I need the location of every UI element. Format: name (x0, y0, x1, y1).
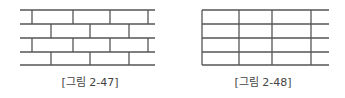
figure-caption-2-47: [그림 2-47] (45, 73, 135, 89)
figure-caption-2-48: [그림 2-48] (218, 73, 308, 89)
